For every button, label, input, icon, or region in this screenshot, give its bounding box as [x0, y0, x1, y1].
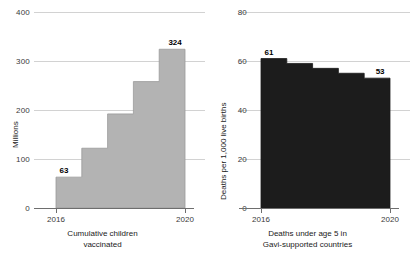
step-area-path [56, 49, 185, 208]
chart-panel-cumulative-children-vaccinated: 400 300 200 100 0 Millions 2016 2020 63 … [0, 0, 205, 261]
xtick-mark-2020 [390, 208, 391, 213]
data-label-last: 53 [376, 67, 385, 76]
panel-caption: Deaths under age 5 in Gavi-supported cou… [205, 228, 410, 250]
panel-caption-line2: vaccinated [0, 239, 205, 250]
panel-caption-line1: Deaths under age 5 in [205, 228, 410, 239]
chart-panel-deaths-under-age-5: 80 60 40 20 0 Deaths per 1,000 live birt… [205, 0, 410, 261]
xtick-label-2020: 2020 [176, 215, 194, 224]
x-axis-line [34, 208, 194, 209]
xtick-label-2016: 2016 [252, 215, 270, 224]
xtick-mark-2016 [261, 208, 262, 213]
step-area-path [261, 59, 390, 208]
dual-step-chart-figure: 400 300 200 100 0 Millions 2016 2020 63 … [0, 0, 410, 261]
panel-caption: Cumulative children vaccinated [0, 228, 205, 250]
xtick-label-2020: 2020 [381, 215, 399, 224]
panel-caption-line1: Cumulative children [0, 228, 205, 239]
x-axis-line [239, 208, 399, 209]
xtick-mark-2016 [56, 208, 57, 213]
data-label-first: 63 [59, 166, 68, 175]
xtick-label-2016: 2016 [47, 215, 65, 224]
xtick-mark-2020 [185, 208, 186, 213]
data-label-first: 61 [264, 48, 273, 57]
step-area-series [205, 0, 410, 261]
data-label-last: 324 [168, 38, 181, 47]
panel-caption-line2: Gavi-supported countries [205, 239, 410, 250]
